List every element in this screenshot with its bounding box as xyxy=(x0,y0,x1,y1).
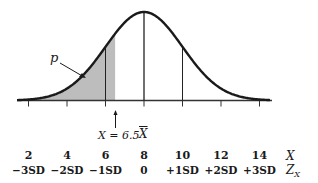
z-value-label: +1SD xyxy=(163,164,203,176)
sd-lines xyxy=(106,12,183,101)
marker-label: X = 6.5 xyxy=(98,129,140,142)
z-value-label: 0 xyxy=(124,164,164,176)
p-pointer-arrow xyxy=(60,63,84,77)
z-value-label: +3SD xyxy=(240,164,280,176)
x-value-label: 8 xyxy=(124,150,164,162)
z-value-label: −3SD xyxy=(9,164,49,176)
x-value-label: 2 xyxy=(9,150,49,162)
x-axis-name: X xyxy=(286,149,295,163)
marker-arrowhead-icon xyxy=(114,110,118,115)
x-value-label: 6 xyxy=(86,150,126,162)
axis-ticks xyxy=(29,101,260,107)
z-value-label: +2SD xyxy=(201,164,241,176)
x-value-label: 12 xyxy=(201,150,241,162)
mean-label: X xyxy=(139,127,148,141)
z-axis-name: ZX xyxy=(286,163,300,179)
x-value-label: 14 xyxy=(240,150,280,162)
z-value-label: −1SD xyxy=(86,164,126,176)
x-value-label: 10 xyxy=(163,150,203,162)
p-label: p xyxy=(50,50,58,65)
z-value-label: −2SD xyxy=(47,164,87,176)
x-value-label: 4 xyxy=(47,150,87,162)
